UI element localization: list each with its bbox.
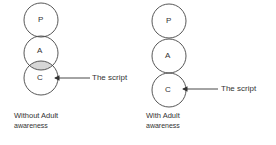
adult-label: A bbox=[37, 46, 42, 55]
child-label: C bbox=[37, 73, 43, 82]
caption-without-adult-awareness: Without Adult awareness bbox=[14, 111, 58, 131]
caption-with-adult-awareness: With Adult awareness bbox=[146, 111, 180, 131]
caption-line-2: awareness bbox=[14, 121, 58, 131]
diagram-without-adult-awareness bbox=[24, 3, 90, 95]
parent-label: P bbox=[166, 16, 171, 25]
child-label: C bbox=[165, 85, 171, 94]
adult-label: A bbox=[165, 51, 170, 60]
script-label: The script bbox=[92, 73, 127, 82]
script-label: The script bbox=[221, 84, 256, 93]
diagram-with-adult-awareness bbox=[152, 4, 218, 107]
caption-line-2: awareness bbox=[146, 121, 180, 131]
caption-line-1: Without Adult bbox=[14, 111, 58, 121]
caption-line-1: With Adult bbox=[146, 111, 180, 121]
parent-label: P bbox=[38, 15, 43, 24]
